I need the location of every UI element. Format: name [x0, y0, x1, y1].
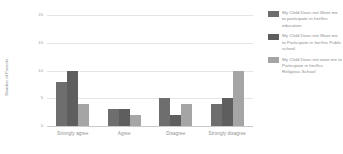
y-tick-label: 0 — [21, 124, 43, 128]
x-tick-label: Strongly agree — [47, 131, 99, 136]
y-tick-label: 15 — [21, 41, 43, 45]
y-tick-label: 5 — [21, 96, 43, 100]
plot-area — [47, 15, 253, 126]
y-axis-title: Number of Parents — [0, 0, 12, 154]
x-tick-label: Disagree — [150, 131, 202, 136]
bar — [211, 104, 222, 126]
legend-item-label: My Child Does not Want me to Participate… — [282, 33, 342, 52]
legend-swatch-icon — [268, 34, 279, 40]
bar — [233, 71, 244, 127]
bar — [108, 109, 119, 126]
y-tick-label: 10 — [21, 69, 43, 73]
legend-item-label: My Child Does not want me to Participate… — [282, 57, 342, 76]
bar-chart: Number of Parents My Child Does not Want… — [0, 0, 343, 154]
bar — [181, 104, 192, 126]
legend-swatch-icon — [268, 57, 279, 63]
bar — [222, 98, 233, 126]
bar — [119, 109, 130, 126]
bar — [67, 71, 78, 127]
bar — [56, 82, 67, 126]
legend-item-label: My Child Does not Want me to participate… — [282, 10, 342, 29]
legend-item[interactable]: My Child Does not Want me to participate… — [268, 10, 342, 29]
bar-group — [56, 15, 89, 126]
legend-item[interactable]: My Child Does not want me to Participate… — [268, 57, 342, 76]
bar-group — [108, 15, 141, 126]
bar-group — [159, 15, 192, 126]
bar — [78, 104, 89, 126]
legend-swatch-icon — [268, 11, 279, 17]
x-axis-line — [47, 126, 253, 127]
legend-item[interactable]: My Child Does not Want me to Participate… — [268, 33, 342, 52]
bar — [130, 115, 141, 126]
x-tick-label: Agree — [99, 131, 151, 136]
x-tick-label: Strongly disagree — [202, 131, 254, 136]
bar — [159, 98, 170, 126]
chart-legend: My Child Does not Want me to participate… — [268, 10, 342, 80]
bar-group — [211, 15, 244, 126]
bar — [170, 115, 181, 126]
y-tick-label: 20 — [21, 13, 43, 17]
